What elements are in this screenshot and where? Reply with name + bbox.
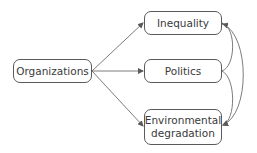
node-inequality: Inequality: [144, 11, 222, 35]
node-politics-label: Politics: [165, 65, 202, 78]
node-environmental-label-line1: Environmental: [145, 114, 221, 127]
edge-politics-inequality: [222, 24, 233, 71]
edge-politics-environment: [222, 71, 233, 125]
node-politics: Politics: [144, 59, 222, 83]
node-inequality-label: Inequality: [157, 17, 209, 30]
edge-org-environment: [92, 71, 143, 126]
node-environmental-degradation: Environmental degradation: [144, 109, 222, 145]
node-organizations-label: Organizations: [16, 65, 89, 78]
node-environmental-label-line2: degradation: [151, 127, 215, 140]
edge-org-inequality: [92, 23, 143, 71]
node-organizations: Organizations: [13, 59, 92, 83]
